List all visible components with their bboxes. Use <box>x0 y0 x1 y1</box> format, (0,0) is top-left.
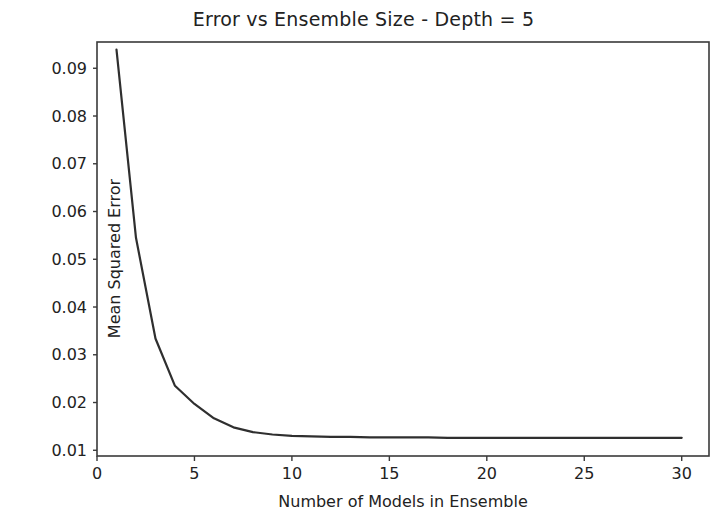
y-tick-label: 0.09 <box>51 59 87 78</box>
chart-figure: Error vs Ensemble Size - Depth = 5 0.010… <box>0 0 727 526</box>
x-tick-label: 5 <box>189 464 199 483</box>
x-tick-label: 30 <box>672 464 692 483</box>
y-tick-label: 0.05 <box>51 250 87 269</box>
plot-background <box>97 42 709 456</box>
y-axis-ticks: 0.010.020.030.040.050.060.070.080.09 <box>51 59 97 460</box>
y-tick-label: 0.07 <box>51 154 87 173</box>
x-tick-label: 15 <box>379 464 399 483</box>
x-tick-label: 10 <box>282 464 302 483</box>
x-axis-label: Number of Models in Ensemble <box>97 492 709 511</box>
y-axis-label: Mean Squared Error <box>105 49 124 469</box>
x-tick-label: 0 <box>92 464 102 483</box>
x-tick-label: 25 <box>574 464 594 483</box>
x-axis-ticks: 051015202530 <box>92 456 692 483</box>
y-tick-label: 0.03 <box>51 345 87 364</box>
y-tick-label: 0.02 <box>51 393 87 412</box>
x-tick-label: 20 <box>477 464 497 483</box>
y-tick-label: 0.01 <box>51 441 87 460</box>
y-tick-label: 0.06 <box>51 202 87 221</box>
y-tick-label: 0.08 <box>51 107 87 126</box>
y-tick-label: 0.04 <box>51 298 87 317</box>
